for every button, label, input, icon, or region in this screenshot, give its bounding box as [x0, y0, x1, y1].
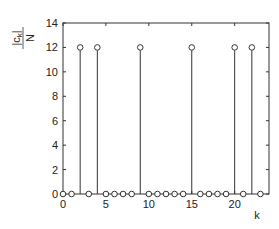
y-tick-label: 10: [46, 66, 58, 78]
stem-marker: [86, 191, 92, 197]
y-label-denominator: N: [24, 34, 36, 42]
stem-marker: [120, 191, 126, 197]
x-tick-label: 10: [143, 198, 155, 210]
stem-marker: [206, 191, 212, 197]
x-tick-label: 15: [186, 198, 198, 210]
y-tick-label: 6: [52, 115, 58, 127]
x-tick-label: 20: [229, 198, 241, 210]
stem-marker: [240, 191, 246, 197]
stem-marker: [129, 191, 135, 197]
stem-marker: [155, 191, 161, 197]
stem-marker: [189, 45, 195, 51]
y-tick-label: 8: [52, 90, 58, 102]
stem-marker: [77, 45, 83, 51]
stem-marker: [163, 191, 169, 197]
stem-marker: [232, 45, 238, 51]
stem-series: [60, 45, 263, 197]
stem-marker: [69, 191, 75, 197]
y-label-numerator: |ck|: [10, 30, 24, 45]
stem-marker: [180, 191, 186, 197]
y-tick-label: 2: [52, 164, 58, 176]
x-axis-label: k: [254, 209, 260, 221]
stem-chart: 02468101214 05101520 |ck|N k: [0, 0, 279, 229]
stem-marker: [172, 191, 178, 197]
y-tick-label: 12: [46, 41, 58, 53]
y-tick-label: 14: [46, 17, 58, 29]
x-tick-label: 0: [60, 198, 66, 210]
stem-marker: [198, 191, 204, 197]
y-axis-label: |ck|N: [10, 27, 36, 49]
stem-marker: [60, 191, 66, 197]
stem-marker: [215, 191, 221, 197]
y-tick-label: 0: [52, 188, 58, 200]
stem-marker: [223, 191, 229, 197]
stem-marker: [103, 191, 109, 197]
stem-marker: [146, 191, 152, 197]
stem-marker: [112, 191, 118, 197]
x-axis-ticks: 05101520: [60, 23, 241, 210]
stem-marker: [137, 45, 143, 51]
stem-marker: [258, 191, 264, 197]
stem-marker: [95, 45, 101, 51]
y-tick-label: 4: [52, 139, 58, 151]
x-tick-label: 5: [103, 198, 109, 210]
axes-box: [63, 23, 269, 194]
plot-area: [63, 23, 269, 194]
stem-marker: [249, 45, 255, 51]
